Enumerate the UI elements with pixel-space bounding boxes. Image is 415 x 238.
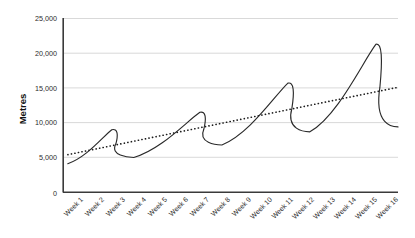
x-tick-label-week-8: Week 8 bbox=[210, 196, 232, 218]
x-tick-label-week-7: Week 7 bbox=[189, 196, 211, 218]
x-tick-label-week-10: Week 10 bbox=[249, 196, 273, 220]
x-tick-label-week-6: Week 6 bbox=[168, 196, 190, 218]
x-tick-label-week-16: Week 16 bbox=[375, 196, 399, 220]
x-tick-label-week-12: Week 12 bbox=[291, 196, 315, 220]
x-tick-label-week-15: Week 15 bbox=[354, 196, 378, 220]
x-tick-label-week-14: Week 14 bbox=[333, 196, 357, 220]
x-tick-label-week-2: Week 2 bbox=[84, 196, 106, 218]
chart-container: 25,000 20,000 15,000 10,000 5,000 0 Metr… bbox=[0, 0, 415, 238]
x-tick-label-week-4: Week 4 bbox=[126, 196, 148, 218]
x-tick-label-week-13: Week 13 bbox=[312, 196, 336, 220]
x-tick-label-week-1: Week 1 bbox=[63, 196, 85, 218]
x-tick-label-week-5: Week 5 bbox=[147, 196, 169, 218]
x-tick-label-week-3: Week 3 bbox=[105, 196, 127, 218]
x-tick-labels: Week 1 Week 2 Week 3 Week 4 Week 5 Week … bbox=[0, 0, 415, 238]
x-tick-label-group: Week 1 Week 2 Week 3 Week 4 Week 5 Week … bbox=[63, 196, 400, 220]
